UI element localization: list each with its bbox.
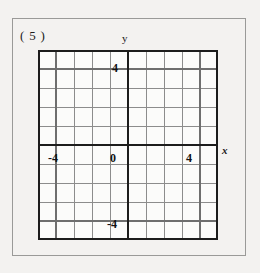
x-tick-label-positive-4: 4 [182,152,196,164]
coordinate-grid-figure: ( 5 ) [0,0,260,273]
origin-label: 0 [104,152,116,164]
grid-lines-svg [38,50,218,240]
x-axis-label: x [222,145,228,156]
y-tick-label-negative-4: -4 [103,218,117,230]
y-tick-label-positive-4: 4 [106,62,118,74]
problem-number-label: ( 5 ) [20,29,46,42]
x-tick-label-negative-4: -4 [44,152,62,164]
y-axis-label: y [122,33,128,44]
coordinate-plane [38,50,218,240]
